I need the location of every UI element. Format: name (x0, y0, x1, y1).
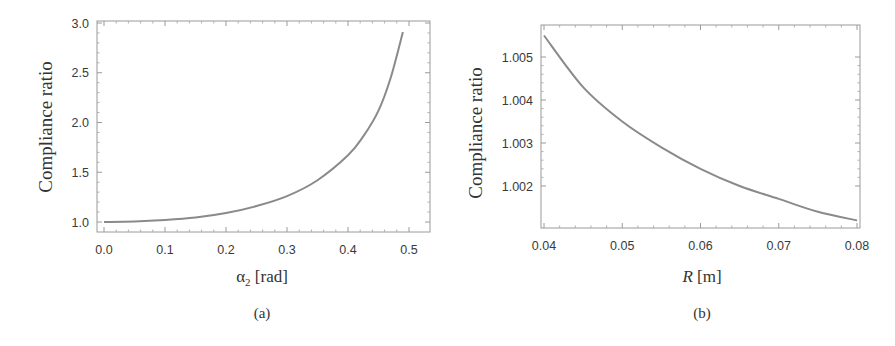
y-tick-label: 1.003 (502, 137, 533, 151)
plot-frame (97, 21, 430, 232)
x-axis-title-base: R (681, 267, 693, 286)
chart-a-svg: 0.00.10.20.30.40.5 1.01.52.02.53.0 Compl… (0, 0, 450, 346)
data-curve (544, 36, 857, 221)
chart-panel-a: 0.00.10.20.30.40.5 1.01.52.02.53.0 Compl… (0, 0, 450, 346)
y-tick-label: 1.0 (72, 216, 89, 230)
x-tick-label: 0.1 (156, 243, 173, 257)
x-axis-title-base: α (236, 267, 245, 286)
chart-caption: (b) (693, 305, 711, 322)
y-tick-label: 3.0 (72, 17, 89, 31)
x-tick-label: 0.5 (400, 243, 417, 257)
y-tick-label: 1.004 (502, 94, 533, 108)
chart-b-svg: 0.040.050.060.070.08 1.0021.0031.0041.00… (450, 0, 895, 346)
x-tick-label: 0.05 (610, 239, 634, 253)
x-tick-label: 0.06 (688, 239, 712, 253)
y-tick-label: 1.005 (502, 51, 533, 65)
plot-frame (541, 25, 860, 228)
x-axis-title: R [m] (681, 267, 721, 286)
x-tick-label: 0.2 (217, 243, 234, 257)
x-axis-title-unit: [m] (693, 267, 722, 286)
y-tick-label: 2.5 (72, 66, 89, 80)
y-tick-label: 1.002 (502, 180, 533, 194)
x-tick-label: 0.08 (845, 239, 869, 253)
x-axis-title: α2 [rad] (236, 267, 288, 288)
x-tick-labels: 0.040.050.060.070.08 (532, 239, 869, 253)
y-tick-labels: 1.0021.0031.0041.005 (502, 51, 533, 194)
x-axis-title-unit: [rad] (251, 267, 288, 286)
chart-panel-b: 0.040.050.060.070.08 1.0021.0031.0041.00… (450, 0, 895, 346)
x-tick-label: 0.0 (95, 243, 112, 257)
x-tick-label: 0.07 (767, 239, 791, 253)
data-curve (104, 32, 403, 222)
x-tick-label: 0.4 (339, 243, 356, 257)
x-tick-labels: 0.00.10.20.30.40.5 (95, 243, 417, 257)
y-tick-labels: 1.01.52.02.53.0 (72, 17, 89, 230)
x-tick-label: 0.3 (278, 243, 295, 257)
minor-ticks (541, 25, 860, 228)
chart-caption: (a) (254, 305, 271, 322)
y-tick-label: 1.5 (72, 166, 89, 180)
y-axis-title: Compliance ratio (465, 67, 486, 198)
y-axis-title: Compliance ratio (35, 61, 56, 192)
y-tick-label: 2.0 (72, 116, 89, 130)
x-tick-label: 0.04 (532, 239, 556, 253)
minor-ticks (97, 21, 430, 232)
